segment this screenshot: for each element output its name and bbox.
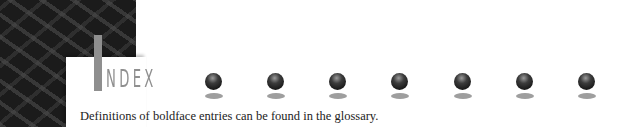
sphere-icon <box>267 73 284 90</box>
sphere-icon <box>454 73 471 90</box>
sphere-shadow <box>267 93 285 99</box>
page-title: NDEX <box>106 67 157 91</box>
sphere-icon <box>329 73 346 90</box>
glossary-note: Definitions of boldface entries can be f… <box>80 109 378 124</box>
sphere-icon <box>516 73 533 90</box>
sphere-icon <box>391 73 408 90</box>
sphere-shadow <box>391 93 409 99</box>
sphere-shadow <box>454 93 472 99</box>
sphere-shadow <box>329 93 347 99</box>
sphere-shadow <box>578 93 596 99</box>
sphere-shadow <box>516 93 534 99</box>
title-initial-bar <box>94 35 102 91</box>
sphere-icon <box>578 73 595 90</box>
sphere-icon <box>205 73 222 90</box>
sphere-shadow <box>205 93 223 99</box>
